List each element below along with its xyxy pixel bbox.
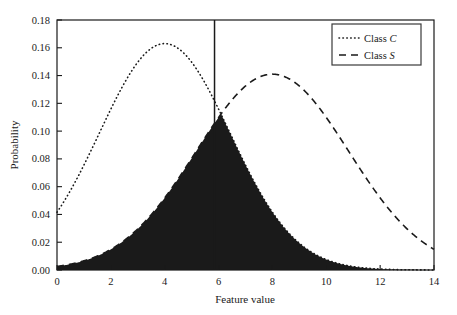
x-tick-label: 12 — [375, 276, 386, 287]
chart-svg: 02468101214 0.000.020.040.060.080.100.12… — [0, 0, 457, 315]
y-tick-label: 0.18 — [32, 15, 50, 26]
x-tick-label: 0 — [54, 276, 59, 287]
y-tick-label: 0.14 — [32, 70, 51, 81]
y-tick-label: 0.10 — [32, 126, 50, 137]
x-tick-label: 8 — [270, 276, 275, 287]
legend: Class C Class S — [332, 24, 421, 65]
y-tick-label: 0.02 — [32, 237, 50, 248]
legend-label-class-s: Class S — [364, 50, 395, 61]
x-tick-label: 2 — [108, 276, 113, 287]
y-tick-label: 0.04 — [32, 209, 51, 220]
y-axis-title: Probability — [8, 120, 20, 169]
legend-label-class-c: Class C — [364, 33, 397, 44]
y-tick-label: 0.16 — [32, 42, 50, 53]
x-axis-title: Feature value — [215, 293, 275, 305]
x-tick-label: 6 — [216, 276, 221, 287]
y-tick-label: 0.08 — [32, 153, 50, 164]
y-tick-label: 0.06 — [32, 181, 50, 192]
y-tick-label: 0.12 — [32, 98, 50, 109]
y-tick-label: 0.00 — [32, 265, 50, 276]
x-tick-label: 4 — [162, 276, 168, 287]
x-tick-label: 14 — [429, 276, 440, 287]
x-tick-label: 10 — [321, 276, 332, 287]
probability-distribution-chart: 02468101214 0.000.020.040.060.080.100.12… — [0, 0, 457, 315]
